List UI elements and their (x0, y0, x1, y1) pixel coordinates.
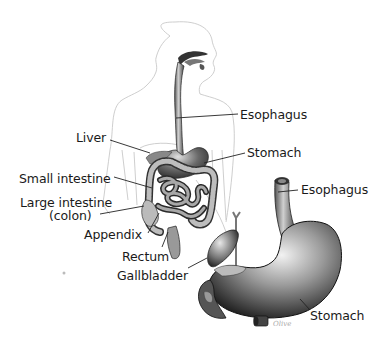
label-appendix: Appendix (84, 228, 142, 241)
label-stomach: Stomach (247, 146, 301, 159)
label-liver: Liver (76, 131, 106, 144)
label-esophagus: Esophagus (240, 108, 307, 121)
digestive-system-diagram: Olive Esophagus Liver Stomach Small inte… (0, 0, 384, 347)
speck (63, 272, 66, 275)
duodenum-end (254, 316, 269, 326)
gallbladder-detail (208, 212, 240, 270)
artist-signature: Olive (273, 320, 291, 328)
rectum-shape (167, 226, 180, 259)
label-colon: (colon) (49, 209, 92, 222)
label-small-intestine: Small intestine (19, 172, 111, 185)
label-gallbladder: Gallbladder (117, 269, 188, 282)
label-rectum: Rectum (122, 250, 169, 263)
label-esophagus-detail: Esophagus (301, 183, 368, 196)
esophagus-tube (175, 62, 184, 160)
label-stomach-detail: Stomach (310, 309, 364, 322)
